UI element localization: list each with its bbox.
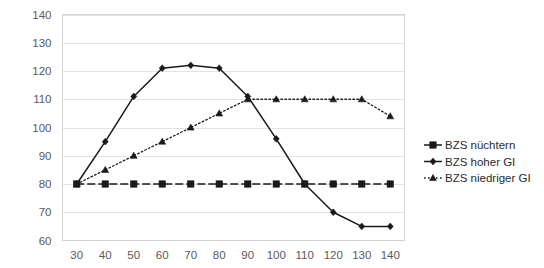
data-point-marker xyxy=(102,166,109,172)
data-point-marker xyxy=(131,181,137,187)
y-axis-tick-label: 80 xyxy=(39,178,52,190)
legend-item-label: BZS niedriger GI xyxy=(445,172,531,184)
line-chart: 60708090100110120130140 3040506070809010… xyxy=(0,0,544,268)
x-axis-tick-label: 50 xyxy=(127,249,140,261)
data-point-marker xyxy=(358,96,365,102)
y-axis-tick-label: 60 xyxy=(39,235,52,247)
data-point-marker xyxy=(387,113,394,119)
y-axis-tick-label: 70 xyxy=(39,206,52,218)
x-axis-tick-label: 70 xyxy=(184,249,197,261)
x-axis-tick-label: 60 xyxy=(156,249,169,261)
x-axis-tick-label: 100 xyxy=(267,249,286,261)
data-point-marker xyxy=(130,152,137,158)
series-line xyxy=(77,65,391,226)
x-axis-tick-label: 40 xyxy=(99,249,112,261)
legend-item[interactable]: BZS nüchtern xyxy=(424,139,515,151)
data-point-marker xyxy=(273,181,279,187)
x-axis-tick-label: 80 xyxy=(213,249,226,261)
data-point-marker xyxy=(359,181,365,187)
data-point-marker xyxy=(430,142,436,148)
data-point-marker xyxy=(430,158,436,165)
series-markers xyxy=(74,62,394,230)
x-axis-tick-labels: 30405060708090100110120130140 xyxy=(70,249,399,261)
data-point-marker xyxy=(159,181,165,187)
data-point-marker xyxy=(387,181,393,187)
y-axis-tick-label: 100 xyxy=(32,122,51,134)
y-axis-tick-label: 110 xyxy=(33,93,51,105)
data-point-marker xyxy=(216,110,223,116)
x-axis-tick-label: 110 xyxy=(296,249,314,261)
y-axis-tick-label: 140 xyxy=(32,9,51,21)
legend-item-label: BZS nüchtern xyxy=(445,139,515,151)
data-point-marker xyxy=(187,124,194,130)
chart-container: 60708090100110120130140 3040506070809010… xyxy=(0,0,544,268)
x-axis-tick-label: 30 xyxy=(70,249,83,261)
legend-item-label: BZS hoher GI xyxy=(445,156,515,168)
y-axis-tick-label: 130 xyxy=(32,37,51,49)
legend-item[interactable]: BZS hoher GI xyxy=(424,156,515,168)
series-lines-group xyxy=(77,65,391,226)
y-axis-tick-labels: 60708090100110120130140 xyxy=(32,9,51,247)
data-point-marker xyxy=(330,181,336,187)
data-point-marker xyxy=(102,181,108,187)
x-axis-tick-label: 120 xyxy=(324,249,343,261)
data-point-marker xyxy=(188,181,194,187)
y-axis-tick-label: 120 xyxy=(32,65,51,77)
y-axis-tick-label: 90 xyxy=(39,150,52,162)
data-point-marker xyxy=(359,223,365,230)
x-axis-tick-label: 90 xyxy=(241,249,254,261)
gridlines-group xyxy=(63,16,405,213)
legend-item[interactable]: BZS niedriger GI xyxy=(424,172,531,184)
x-axis-tick-label: 140 xyxy=(381,249,400,261)
x-axis-tick-label: 130 xyxy=(352,249,371,261)
data-point-marker xyxy=(159,138,166,144)
data-point-marker xyxy=(216,181,222,187)
chart-legend: BZS nüchternBZS hoher GIBZS niedriger GI xyxy=(424,139,531,184)
data-point-marker xyxy=(188,62,194,69)
series-markers-group xyxy=(73,62,393,230)
data-point-marker xyxy=(245,181,251,187)
series-markers xyxy=(73,96,393,187)
data-point-marker xyxy=(387,223,393,230)
data-point-marker xyxy=(430,175,437,181)
